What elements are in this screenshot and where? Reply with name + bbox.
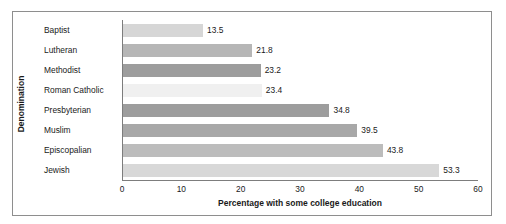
x-tick-label: 60: [463, 183, 493, 195]
bar-value-label: 53.3: [443, 164, 459, 176]
x-axis-line: [122, 180, 478, 181]
bar-value-label: 43.8: [387, 144, 403, 156]
bar: [123, 144, 383, 157]
chart-figure: Denomination BaptistLutheranMethodistRom…: [0, 0, 506, 224]
x-tick-label: 30: [285, 183, 315, 195]
bar: [123, 24, 203, 37]
category-label: Methodist: [44, 64, 120, 76]
bar: [123, 104, 329, 117]
category-label: Episcopalian: [44, 144, 120, 156]
bar: [123, 84, 262, 97]
bar-value-label: 21.8: [256, 44, 272, 56]
bar-value-label: 34.8: [333, 104, 349, 116]
category-label: Roman Catholic: [44, 84, 120, 96]
x-axis-title: Percentage with some college education: [122, 197, 478, 209]
y-axis-title-label: Denomination: [14, 38, 28, 170]
bar-value-label: 13.5: [207, 24, 223, 36]
bar: [123, 64, 261, 77]
category-label: Jewish: [44, 164, 120, 176]
category-label: Muslim: [44, 124, 120, 136]
x-axis-tick-labels: 0102030405060: [122, 183, 482, 195]
bar-value-label: 23.2: [265, 64, 281, 76]
plot-area: 13.521.823.223.434.839.543.853.3: [122, 20, 478, 180]
x-tick-label: 50: [404, 183, 434, 195]
category-label: Presbyterian: [44, 104, 120, 116]
y-axis-title: Denomination: [28, 38, 42, 170]
category-label: Lutheran: [44, 44, 120, 56]
x-tick-label: 40: [344, 183, 374, 195]
bar-value-label: 23.4: [266, 84, 282, 96]
x-tick-label: 20: [226, 183, 256, 195]
x-tick-label: 0: [107, 183, 137, 195]
bar: [123, 124, 357, 137]
bar-value-label: 39.5: [361, 124, 377, 136]
bar: [123, 44, 252, 57]
y-axis-category-labels: BaptistLutheranMethodistRoman CatholicPr…: [44, 20, 120, 180]
category-label: Baptist: [44, 24, 120, 36]
bar: [123, 164, 439, 177]
x-tick-label: 10: [166, 183, 196, 195]
